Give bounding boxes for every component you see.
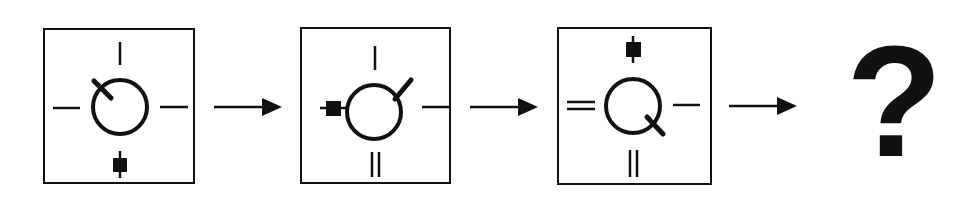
left-square-icon (326, 101, 341, 116)
panel-3 (557, 27, 712, 185)
top-square-icon (626, 42, 641, 57)
bottom-square-icon (113, 158, 127, 172)
arrow-1 (212, 97, 284, 121)
arrow-3 (727, 96, 799, 120)
panel-2 (300, 27, 451, 184)
panel-1-figure (43, 28, 195, 184)
panel-3-figure (557, 27, 712, 185)
arrow-right-icon (468, 97, 540, 117)
panel-2-figure (300, 27, 451, 184)
answer-placeholder-question-mark: ? (846, 26, 938, 176)
arrow-2 (468, 97, 540, 121)
panel-1 (43, 28, 195, 184)
arrow-right-icon (727, 96, 799, 116)
arrow-right-icon (212, 97, 284, 117)
